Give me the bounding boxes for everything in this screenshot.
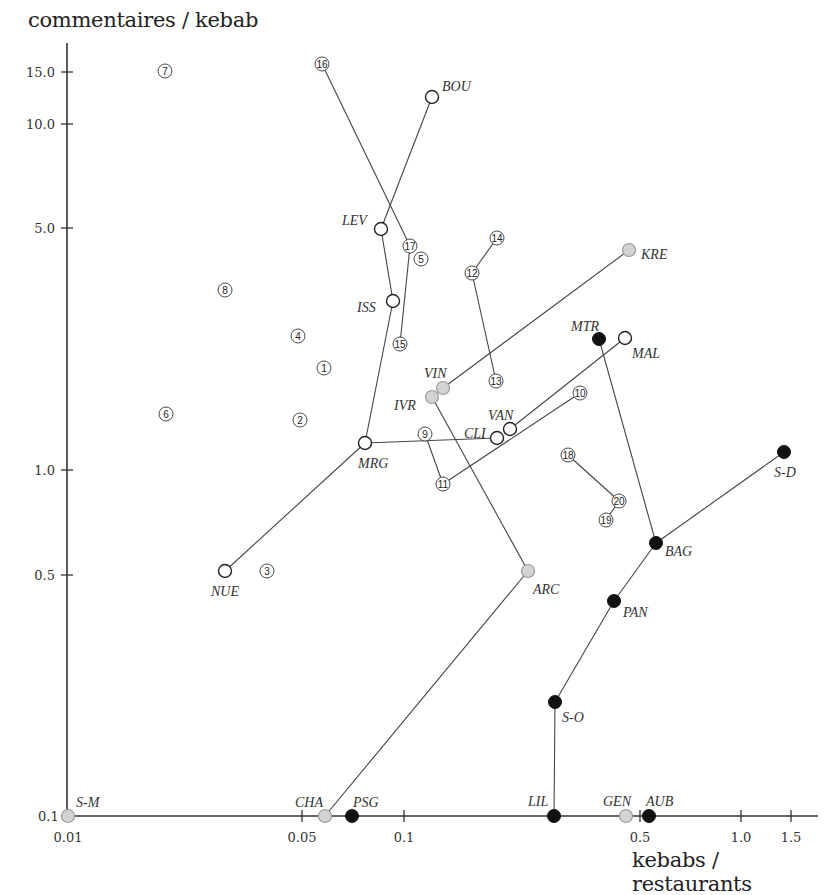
data-point-6: 6 — [159, 407, 173, 421]
y-tick-label: 0.1 — [38, 809, 59, 824]
point-number: 1 — [321, 363, 327, 374]
point-label: BOU — [442, 79, 472, 94]
black-circle-marker-icon — [643, 810, 656, 823]
point-number: 13 — [490, 376, 502, 387]
point-label: MTR — [570, 319, 599, 334]
point-label: LIL — [527, 794, 548, 809]
data-point-lil: LIL — [527, 794, 561, 823]
point-number: 4 — [295, 331, 301, 342]
connection-line — [472, 273, 496, 381]
point-label: S-O — [562, 710, 584, 725]
data-point-15: 15 — [393, 337, 407, 351]
point-number: 11 — [438, 479, 449, 490]
data-point-cli: CLI — [464, 426, 504, 445]
data-point-bou: BOU — [426, 79, 472, 104]
data-point-7: 7 — [158, 64, 172, 78]
data-points: BOULEVISSMRGNUECLIVANMALKREVINIVRARCS-MC… — [62, 57, 796, 823]
black-circle-marker-icon — [593, 333, 606, 346]
data-point-pan: PAN — [608, 595, 649, 621]
data-point-lev: LEV — [341, 213, 388, 236]
connection-line — [614, 543, 656, 601]
data-point-mal: MAL — [619, 332, 661, 362]
black-circle-marker-icon — [548, 810, 561, 823]
open-circle-marker-icon — [387, 295, 400, 308]
data-point-18: 18 — [561, 448, 575, 462]
data-point-gen: GEN — [603, 794, 633, 823]
data-point-8: 8 — [218, 283, 232, 297]
point-label: CHA — [295, 795, 323, 810]
gray-circle-marker-icon — [426, 391, 439, 404]
data-point-iss: ISS — [356, 295, 400, 316]
point-label: ARC — [532, 582, 560, 597]
data-point-aub: AUB — [643, 794, 674, 823]
x-tick-label: 0.01 — [54, 830, 83, 845]
black-circle-marker-icon — [549, 696, 562, 709]
data-point-10: 10 — [573, 386, 587, 400]
black-circle-marker-icon — [608, 595, 621, 608]
data-point-vin: VIN — [424, 366, 450, 395]
connection-lines — [225, 64, 784, 816]
connection-line — [554, 702, 555, 816]
connection-line — [381, 97, 432, 229]
data-point-psg: PSG — [346, 795, 379, 823]
gray-circle-marker-icon — [522, 565, 535, 578]
data-point-5: 5 — [414, 252, 428, 266]
data-point-arc: ARC — [522, 565, 561, 598]
black-circle-marker-icon — [650, 537, 663, 550]
point-number: 7 — [162, 66, 168, 77]
data-point-20: 20 — [612, 494, 626, 508]
open-circle-marker-icon — [219, 565, 232, 578]
point-label: S-D — [774, 465, 796, 480]
data-point-3: 3 — [260, 564, 274, 578]
data-point-4: 4 — [291, 329, 305, 343]
connection-line — [381, 229, 393, 301]
point-label: S-M — [76, 795, 101, 810]
connection-line — [555, 601, 614, 702]
connection-line — [325, 571, 528, 816]
data-point-1: 1 — [317, 361, 331, 375]
open-circle-marker-icon — [504, 423, 517, 436]
point-label: MAL — [631, 346, 660, 361]
open-circle-marker-icon — [491, 432, 504, 445]
data-point-s-d: S-D — [774, 446, 796, 481]
data-point-16: 16 — [315, 57, 329, 71]
open-circle-marker-icon — [619, 332, 632, 345]
connection-line — [400, 246, 410, 344]
y-tick-label: 10.0 — [26, 117, 55, 132]
data-point-9: 9 — [418, 427, 432, 441]
point-number: 9 — [422, 429, 428, 440]
connection-line — [225, 443, 365, 571]
black-circle-marker-icon — [778, 446, 791, 459]
data-point-13: 13 — [489, 374, 503, 388]
point-label: AUB — [645, 794, 674, 809]
point-number: 14 — [491, 233, 503, 244]
data-point-12: 12 — [465, 266, 479, 280]
connection-line — [656, 452, 784, 543]
point-label: PAN — [622, 605, 648, 620]
data-point-19: 19 — [599, 513, 613, 527]
y-tick-label: 15.0 — [26, 65, 55, 80]
x-tick-label: 1.0 — [731, 830, 752, 845]
gray-circle-marker-icon — [437, 382, 450, 395]
connection-line — [425, 434, 443, 484]
open-circle-marker-icon — [359, 437, 372, 450]
data-point-17: 17 — [403, 239, 417, 253]
point-number: 5 — [418, 254, 424, 265]
point-number: 17 — [404, 241, 416, 252]
point-label: NUE — [210, 584, 239, 599]
point-label: VAN — [488, 408, 514, 423]
x-tick-label: 0.5 — [630, 830, 651, 845]
y-ticks: 15.010.05.01.00.50.1 — [26, 65, 73, 824]
data-point-ivr: IVR — [393, 391, 439, 414]
x-tick-label: 0.1 — [394, 830, 415, 845]
connection-line — [510, 338, 625, 429]
point-label: IVR — [393, 398, 416, 413]
data-point-s-o: S-O — [549, 696, 584, 726]
connection-line — [599, 339, 656, 543]
data-point-nue: NUE — [210, 565, 239, 600]
x-tick-label: 1.5 — [781, 830, 802, 845]
scatter-plot: 15.010.05.01.00.50.1 0.010.050.10.51.01.… — [0, 0, 840, 895]
point-number: 19 — [600, 515, 612, 526]
data-point-mrg: MRG — [357, 437, 388, 472]
data-point-bag: BAG — [650, 537, 693, 560]
